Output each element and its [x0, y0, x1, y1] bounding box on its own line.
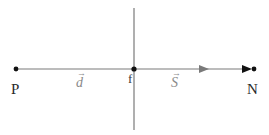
- point-f-dot: [131, 66, 136, 71]
- point-p-dot: [14, 67, 19, 72]
- vector-d-label: → d: [76, 76, 83, 90]
- vector-arrow-icon: →: [172, 69, 181, 78]
- label-n: N: [247, 82, 258, 97]
- diagram-canvas: [0, 0, 269, 135]
- vector-s-label: → S: [171, 76, 178, 90]
- vector-arrow-icon: →: [77, 69, 86, 78]
- label-f: f: [128, 72, 132, 85]
- point-n-dot: [252, 67, 257, 72]
- label-p: P: [11, 82, 19, 97]
- end-arrowhead-icon: [242, 65, 252, 73]
- mid-arrowhead-icon: [199, 65, 209, 73]
- vector-diagram: P f N → d → S: [0, 0, 269, 135]
